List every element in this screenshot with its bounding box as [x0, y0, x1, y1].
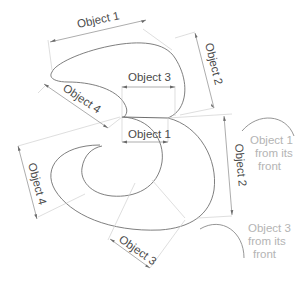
side-view-3-line1: Object 3 — [248, 222, 291, 234]
label-bottom-diag: Object 3 — [117, 233, 159, 267]
side-view-3-line3: front — [253, 248, 277, 260]
dimension-labels: Object 1 Object 2 Object 3 Object 4 Obje… — [26, 9, 249, 267]
label-bottom-left-height: Object 4 — [26, 161, 49, 206]
side-view-object-3: Object 3 from its front — [200, 222, 291, 260]
label-top-right-height: Object 2 — [203, 42, 225, 86]
side-view-3-line2: from its — [248, 235, 286, 247]
label-middle-width: Object 1 — [128, 128, 171, 140]
extension-lines — [18, 29, 232, 268]
front-arc-icon — [200, 224, 244, 258]
side-view-1-line2: from its — [255, 147, 293, 159]
side-view-object-1: Object 1 from its front — [242, 118, 294, 172]
side-view-1-line1: Object 1 — [250, 134, 293, 146]
label-top-width: Object 1 — [76, 9, 120, 30]
label-top-left-diag: Object 4 — [61, 82, 104, 116]
side-view-1-line3: front — [258, 160, 282, 172]
label-bottom-right-height: Object 2 — [233, 143, 249, 187]
number-three-diagram: Object 1 Object 2 Object 3 Object 4 Obje… — [0, 0, 304, 282]
label-top-inner-width: Object 3 — [128, 71, 171, 83]
